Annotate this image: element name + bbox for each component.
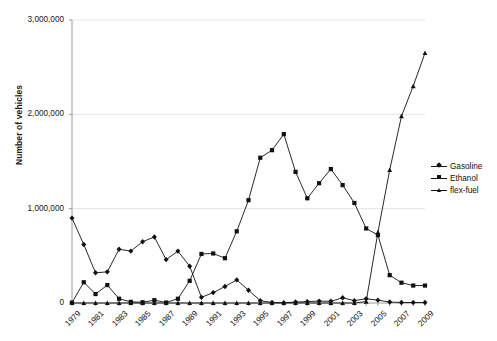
data-point-marker bbox=[317, 181, 321, 185]
legend-point-marker bbox=[436, 162, 442, 168]
data-point-marker bbox=[211, 290, 216, 295]
data-point-marker bbox=[411, 300, 416, 305]
data-point-marker bbox=[423, 50, 428, 55]
series-line bbox=[72, 53, 425, 303]
series-gasoline bbox=[70, 215, 428, 305]
y-tick-label: 1,000,000 bbox=[28, 204, 64, 213]
legend-label: flex-fuel bbox=[450, 186, 479, 195]
data-point-marker bbox=[399, 281, 403, 285]
legend-item-ethanol[interactable]: Ethanol bbox=[431, 172, 482, 184]
data-point-marker bbox=[258, 156, 262, 160]
data-point-marker bbox=[375, 297, 380, 302]
legend-item-flex-fuel[interactable]: flex-fuel bbox=[431, 184, 482, 196]
legend-point-marker bbox=[437, 188, 441, 192]
data-point-marker bbox=[423, 283, 427, 287]
y-axis-title: Number of vehicles bbox=[14, 70, 24, 180]
series-flex-fuel bbox=[70, 50, 428, 305]
series-ethanol bbox=[70, 132, 427, 305]
y-tick-label: 0 bbox=[59, 298, 64, 307]
data-point-marker bbox=[105, 269, 110, 274]
chart-container: Number of vehicles 01,000,0002,000,0003,… bbox=[0, 0, 497, 341]
data-point-marker bbox=[105, 283, 109, 287]
data-point-marker bbox=[70, 215, 75, 220]
data-point-marker bbox=[399, 300, 404, 305]
legend-label: Gasoline bbox=[450, 162, 482, 171]
series-line bbox=[72, 134, 425, 302]
legend-point-marker bbox=[437, 175, 441, 179]
data-point-marker bbox=[341, 183, 345, 187]
data-point-marker bbox=[117, 247, 122, 252]
data-point-marker bbox=[423, 300, 428, 305]
data-point-marker bbox=[293, 170, 297, 174]
data-point-marker bbox=[199, 295, 204, 300]
data-point-marker bbox=[222, 284, 227, 289]
data-point-marker bbox=[152, 234, 157, 239]
y-tick-label: 2,000,000 bbox=[28, 109, 64, 118]
data-point-marker bbox=[388, 273, 392, 277]
y-tick-label: 3,000,000 bbox=[28, 15, 64, 24]
legend-item-gasoline[interactable]: Gasoline bbox=[431, 160, 482, 172]
data-point-marker bbox=[81, 242, 86, 247]
legend-marker-icon bbox=[431, 173, 447, 183]
data-point-marker bbox=[246, 198, 250, 202]
legend-marker-icon bbox=[431, 185, 447, 195]
data-point-marker bbox=[376, 230, 381, 235]
data-point-marker bbox=[329, 167, 333, 171]
data-point-marker bbox=[211, 251, 215, 255]
data-point-marker bbox=[387, 167, 392, 172]
data-point-marker bbox=[270, 148, 274, 152]
data-point-marker bbox=[82, 280, 86, 284]
data-point-marker bbox=[176, 297, 180, 301]
data-point-marker bbox=[93, 292, 97, 296]
data-point-marker bbox=[93, 270, 98, 275]
data-point-marker bbox=[411, 283, 415, 287]
data-point-marker bbox=[223, 256, 227, 260]
data-point-marker bbox=[282, 132, 286, 136]
data-point-marker bbox=[340, 295, 345, 300]
data-point-marker bbox=[364, 226, 368, 230]
data-point-marker bbox=[411, 83, 416, 88]
chart-legend: GasolineEthanolflex-fuel bbox=[431, 160, 482, 196]
data-point-marker bbox=[305, 196, 309, 200]
data-point-marker bbox=[188, 279, 192, 283]
legend-marker-icon bbox=[431, 161, 447, 171]
legend-label: Ethanol bbox=[450, 174, 478, 183]
data-point-marker bbox=[235, 229, 239, 233]
data-point-marker bbox=[199, 252, 203, 256]
data-point-marker bbox=[164, 257, 169, 262]
data-point-marker bbox=[387, 299, 392, 304]
data-point-marker bbox=[117, 297, 121, 301]
plot-area bbox=[0, 0, 497, 341]
data-point-marker bbox=[352, 201, 356, 205]
